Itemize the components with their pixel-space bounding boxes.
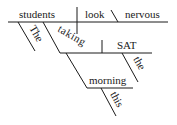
word-predicate-adjective: nervous [125,8,160,20]
word-verb: look [85,8,105,20]
word-subject-article: The [27,23,46,44]
predicate-adjective-slash [111,10,118,22]
word-subject: students [19,8,55,20]
word-participle: taking [56,22,88,48]
adverbial-diagonal [66,53,87,88]
word-participle-object: SAT [117,39,137,51]
sentence-diagram: students look nervous The taking SAT the… [0,0,177,125]
word-object-article: the [131,54,148,72]
word-adverbial-noun: morning [89,74,127,86]
